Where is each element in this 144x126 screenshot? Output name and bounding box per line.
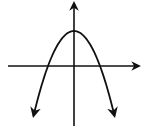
plot-canvas (0, 0, 144, 126)
parabola-plot (0, 0, 144, 126)
